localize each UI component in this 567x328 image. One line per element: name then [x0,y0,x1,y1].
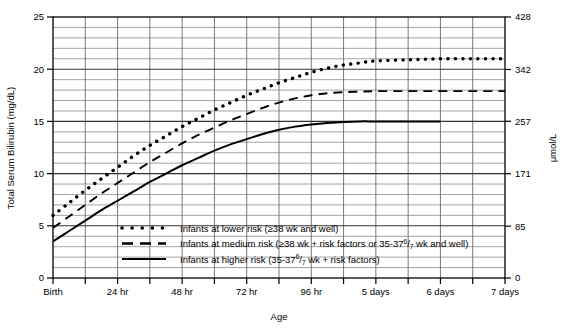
tick-label-x: 96 hr [300,286,322,297]
tick-label-x: Birth [43,286,63,297]
legend-label: Infants at lower risk (≥38 wk and well) [180,223,338,234]
tick-label-x: 7 days [491,286,519,297]
legend-label: Infants at medium risk (≥38 wk + risk fa… [180,238,468,250]
tick-label-x: 48 hr [171,286,193,297]
y-axis-right-title: μmol/L [547,134,558,163]
tick-label-x: 72 hr [236,286,258,297]
tick-label-right: 171 [515,168,531,179]
legend-label-main: Infants at medium risk (≥38 wk + risk fa… [180,238,404,249]
bilirubin-nomogram-chart: 0510152025085171257342428Birth24 hr48 hr… [0,0,567,328]
tick-label-x: 24 hr [107,286,129,297]
legend-label-tail: wk + risk factors) [306,254,380,265]
tick-label-left: 5 [39,220,44,231]
x-axis-title: Age [271,311,288,322]
legend-label: Infants at higher risk (35-376/7 wk + ri… [180,253,380,265]
y-axis-left-title: Total Serum Bilirubin (mg/dL) [5,87,16,210]
tick-label-left: 20 [33,64,44,75]
tick-label-right: 428 [515,11,531,22]
tick-label-x: 5 days [362,286,390,297]
tick-label-right: 0 [515,272,520,283]
tick-label-right: 257 [515,116,531,127]
chart-legend: Infants at lower risk (≥38 wk and well)I… [122,223,468,266]
legend-label-tail: wk and well) [413,238,468,249]
tick-label-left: 25 [33,11,44,22]
tick-label-left: 0 [39,272,44,283]
chart-figure: 0510152025085171257342428Birth24 hr48 hr… [0,0,567,328]
tick-label-left: 10 [33,168,44,179]
tick-label-left: 15 [33,116,44,127]
tick-label-right: 85 [515,221,526,232]
tick-label-x: 6 days [426,286,454,297]
tick-label-right: 342 [515,64,531,75]
legend-label-main: Infants at higher risk (35-37 [180,254,296,265]
legend-label-main: Infants at lower risk (≥38 wk and well) [180,223,338,234]
